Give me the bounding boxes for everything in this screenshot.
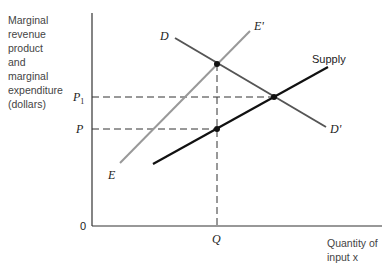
- label-e: E: [107, 168, 116, 182]
- point-de: [214, 61, 220, 67]
- point-equilibrium: [271, 94, 277, 100]
- tick-p1: P1: [72, 90, 84, 106]
- d-curve: [175, 38, 326, 127]
- diagram-canvas: D D' E E' Supply P1 P 0 Q: [0, 0, 388, 268]
- label-d: D: [159, 29, 169, 43]
- label-d-prime: D': [329, 122, 342, 136]
- tick-p: P: [75, 122, 84, 136]
- tick-origin: 0: [80, 220, 86, 232]
- supply-curve: [153, 67, 328, 164]
- label-supply: Supply: [312, 53, 346, 65]
- label-e-prime: E': [253, 19, 264, 33]
- tick-q: Q: [212, 232, 221, 246]
- point-supply-q: [214, 126, 220, 132]
